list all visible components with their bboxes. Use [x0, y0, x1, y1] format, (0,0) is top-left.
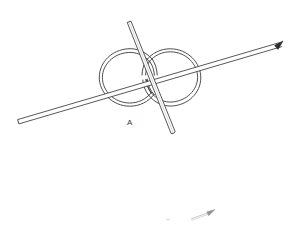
reference-label-a: A [127, 119, 133, 127]
long-rod-edge-bottom [19, 47, 282, 124]
faint-partial-arrow-group [191, 210, 215, 221]
figure-canvas: A [0, 0, 294, 225]
long-diagonal-rod-group [18, 41, 283, 124]
technical-line-drawing [0, 0, 294, 225]
long-rod-body-mask [18, 42, 282, 123]
long-rod-edge-top [18, 42, 281, 119]
faint-arrow-arrowhead-icon [207, 210, 215, 216]
